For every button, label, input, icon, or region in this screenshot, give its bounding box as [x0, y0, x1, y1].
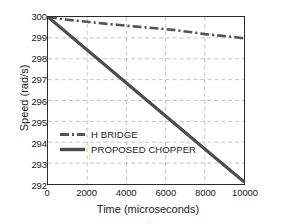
y-axis-tick-label: 298 — [31, 53, 47, 64]
y-axis-tick-label: 294 — [31, 137, 47, 148]
x-axis-tick-label: 10000 — [232, 187, 258, 198]
x-axis-tick-label: 8000 — [195, 187, 216, 198]
x-axis-tick-label: 2000 — [76, 187, 97, 198]
y-axis-tick-label: 299 — [31, 32, 47, 43]
y-axis-tick-label: 295 — [31, 116, 47, 127]
solid-line-icon — [60, 144, 85, 155]
plot-canvas — [48, 17, 244, 184]
y-axis-tick-label: 296 — [31, 95, 47, 106]
y-axis-tick-label: 300 — [31, 11, 47, 22]
series-line — [48, 17, 244, 38]
chart-legend: H BRIDGE PROPOSED CHOPPER — [60, 128, 196, 158]
legend-item-proposed-chopper: PROPOSED CHOPPER — [60, 143, 196, 156]
x-axis-title: Time (microseconds) — [0, 203, 296, 215]
plot-area — [47, 16, 245, 185]
legend-label-proposed-chopper: PROPOSED CHOPPER — [91, 144, 196, 155]
legend-item-h-bridge: H BRIDGE — [60, 128, 196, 141]
x-axis-tick-label: 0 — [44, 187, 49, 198]
x-axis-tick-label: 6000 — [155, 187, 176, 198]
dash-dot-line-icon — [60, 129, 85, 140]
speed-vs-time-chart: 292293294295296297298299300 020004000600… — [0, 0, 296, 224]
legend-label-h-bridge: H BRIDGE — [91, 129, 138, 140]
x-axis-tick-label: 4000 — [116, 187, 137, 198]
y-axis-tick-label: 297 — [31, 74, 47, 85]
y-axis-tick-label: 293 — [31, 158, 47, 169]
y-axis-title: Speed (rad/s) — [18, 18, 30, 178]
